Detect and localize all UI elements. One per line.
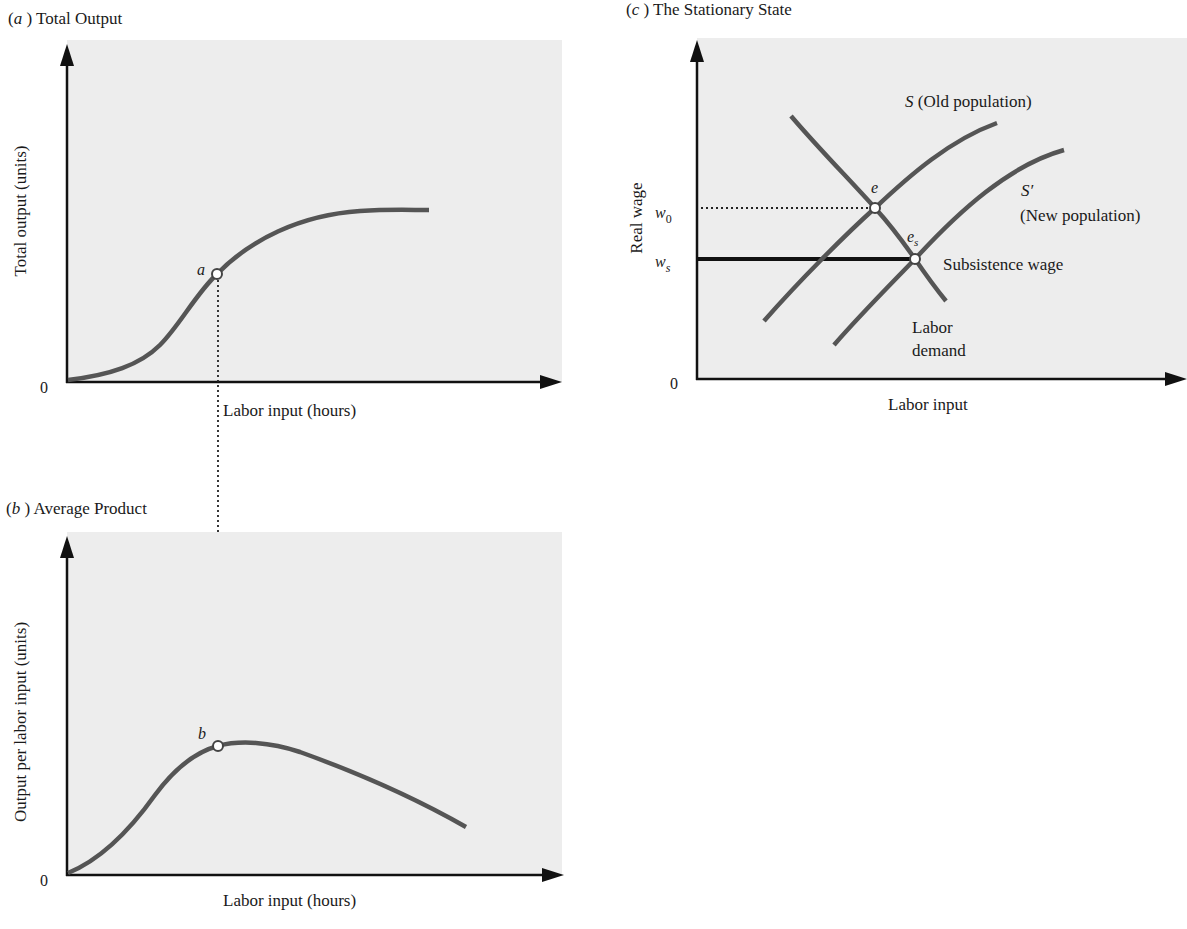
panel-c-origin-label: 0	[670, 375, 678, 392]
point-e-marker	[870, 203, 880, 213]
supply-new-label: (New population)	[1020, 206, 1140, 225]
panel-b-plot-area	[67, 532, 562, 874]
panel-b-title: (b ) Average Product	[6, 499, 147, 518]
panel-c-title: (c ) The Stationary State	[626, 0, 792, 19]
point-e-label: e	[871, 179, 878, 196]
panel-b-y-label: Output per labor input (units)	[11, 622, 30, 822]
panel-a-title: (a ) Total Output	[8, 9, 122, 28]
panel-b-x-label: Labor input (hours)	[223, 891, 356, 910]
labor-demand-label-line1: Labor	[912, 318, 953, 337]
figure: (a ) Total Output 0 Total output (units)…	[0, 0, 1187, 929]
point-b-label: b	[198, 725, 206, 742]
subsistence-wage-label: Subsistence wage	[943, 255, 1063, 274]
point-es-marker	[910, 254, 920, 264]
panel-b-average-product: (b ) Average Product 0 Output per labor …	[6, 499, 564, 910]
panel-a-x-label: Labor input (hours)	[223, 401, 356, 420]
panel-c-y-label: Real wage	[627, 182, 646, 253]
labor-demand-label-line2: demand	[912, 341, 966, 360]
point-a-label: a	[197, 261, 205, 278]
supply-old-label: S (Old population)	[905, 92, 1032, 111]
panel-a-plot-area	[67, 40, 562, 382]
point-b-marker	[213, 741, 223, 751]
supply-new-symbol: S′	[1021, 181, 1034, 200]
panel-b-origin-label: 0	[40, 872, 48, 889]
w0-tick-label: w0	[655, 204, 672, 226]
panel-a-origin-label: 0	[40, 379, 48, 396]
point-a-marker	[212, 269, 222, 279]
ws-tick-label: ws	[655, 253, 671, 275]
panel-c-stationary-state: (c ) The Stationary State 0 Real wage La…	[626, 0, 1187, 414]
panel-c-x-label: Labor input	[888, 395, 968, 414]
panel-a-y-label: Total output (units)	[11, 145, 30, 276]
panel-a-total-output: (a ) Total Output 0 Total output (units)…	[8, 9, 562, 420]
